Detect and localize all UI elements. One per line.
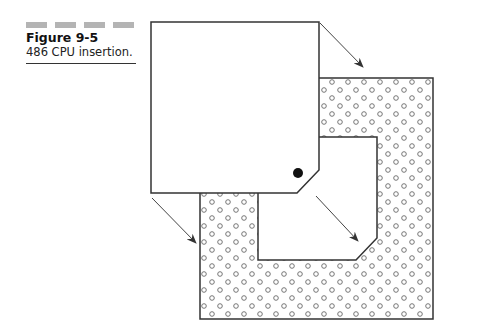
pin1-marker-dot [293, 168, 303, 178]
cpu-chip [151, 22, 319, 193]
arrow-bottom-left [152, 198, 196, 243]
arrow-center [316, 196, 358, 241]
cpu-insertion-diagram [0, 0, 487, 334]
arrow-top-right [320, 23, 363, 67]
